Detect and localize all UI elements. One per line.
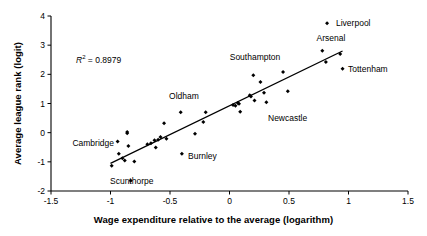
y-tick-label: -1 [25, 157, 45, 167]
data-point [341, 67, 345, 71]
data-point [281, 70, 285, 74]
data-point [251, 73, 255, 77]
x-tick-label: 0 [227, 196, 232, 206]
r-squared-exponent: 2 [82, 54, 85, 60]
point-label-newcastle: Newcastle [268, 113, 307, 123]
data-point [252, 99, 256, 103]
y-tick-label: 0 [25, 128, 45, 138]
axis-ticks [48, 16, 409, 195]
data-point [262, 91, 266, 95]
point-label-scunthorpe: Scunthorpe [110, 176, 153, 186]
y-tick-label: 2 [25, 69, 45, 79]
r-squared-annotation: R2 = 0.8979 [76, 54, 121, 65]
point-label-burnley: Burnley [188, 151, 217, 161]
data-point [238, 110, 242, 114]
data-point [117, 152, 121, 156]
data-point [320, 49, 324, 53]
axes [51, 16, 408, 191]
x-tick-label: 1.5 [402, 196, 414, 206]
point-label-tottenham: Tottenham [348, 64, 388, 74]
y-tick-label: 3 [25, 40, 45, 50]
point-label-cambridge: Cambridge [72, 138, 114, 148]
regression-line [111, 51, 343, 163]
scatter-plot-canvas [0, 0, 427, 236]
data-point [204, 110, 208, 114]
data-point [126, 144, 130, 148]
data-point [258, 80, 262, 84]
data-point [162, 121, 166, 125]
x-tick-label: 0.5 [283, 196, 295, 206]
y-axis-title: Average league rank (logit) [12, 29, 23, 179]
data-point [116, 139, 120, 143]
point-label-southampton: Southampton [230, 52, 281, 62]
data-point [264, 100, 268, 104]
data-point [201, 120, 205, 124]
x-axis-title: Wage expenditure relative to the average… [0, 214, 427, 225]
x-tick-label: -1 [107, 196, 115, 206]
r-squared-value: = 0.8979 [88, 55, 121, 65]
x-tick-label: 1 [346, 196, 351, 206]
point-label-liverpool: Liverpool [336, 18, 371, 28]
data-point [179, 110, 183, 114]
data-point [193, 132, 197, 136]
data-points [110, 21, 345, 183]
y-tick-label: 4 [25, 11, 45, 21]
data-point [132, 160, 136, 164]
data-point [286, 89, 290, 93]
chart-figure: -1.5-1-0.500.511.5 -2-101234 R2 = 0.8979… [0, 0, 427, 236]
x-tick-label: -1.5 [44, 196, 59, 206]
data-point [180, 152, 184, 156]
point-label-oldham: Oldham [169, 91, 199, 101]
data-point [110, 164, 114, 168]
y-tick-label: -2 [25, 186, 45, 196]
data-point [324, 60, 328, 64]
x-tick-label: -0.5 [163, 196, 178, 206]
data-point [325, 21, 329, 25]
trend-line [111, 51, 343, 163]
data-point [154, 146, 158, 150]
point-label-arsenal: Arsenal [317, 33, 346, 43]
y-tick-label: 1 [25, 99, 45, 109]
